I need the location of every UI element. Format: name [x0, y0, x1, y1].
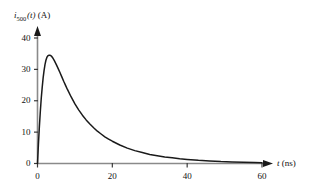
x-axis-title: t (ns) — [277, 159, 296, 168]
x-axis-tick-label: 60 — [247, 172, 277, 181]
y-axis-title: i500 (t) (A) — [14, 11, 50, 22]
y-axis-unit: (A) — [38, 10, 51, 20]
y-axis-tick-label: 10 — [5, 128, 31, 137]
x-axis-tick-label: 0 — [23, 172, 53, 181]
x-axis-tick-label: 20 — [97, 172, 127, 181]
y-axis-arg: (t) — [27, 10, 36, 20]
x-axis-unit: (ns) — [282, 158, 296, 168]
chart-canvas — [0, 0, 311, 186]
y-axis-subscript: 500 — [17, 15, 27, 22]
y-axis-tick-label: 40 — [5, 34, 31, 43]
chart-figure: i500 (t) (A) t (ns) 0102030400204060 — [0, 0, 311, 186]
y-axis-tick-label: 0 — [5, 159, 31, 168]
y-axis-tick-label: 30 — [5, 65, 31, 74]
x-axis-tick-label: 40 — [172, 172, 202, 181]
chart-background — [0, 0, 311, 186]
y-axis-tick-label: 20 — [5, 96, 31, 105]
